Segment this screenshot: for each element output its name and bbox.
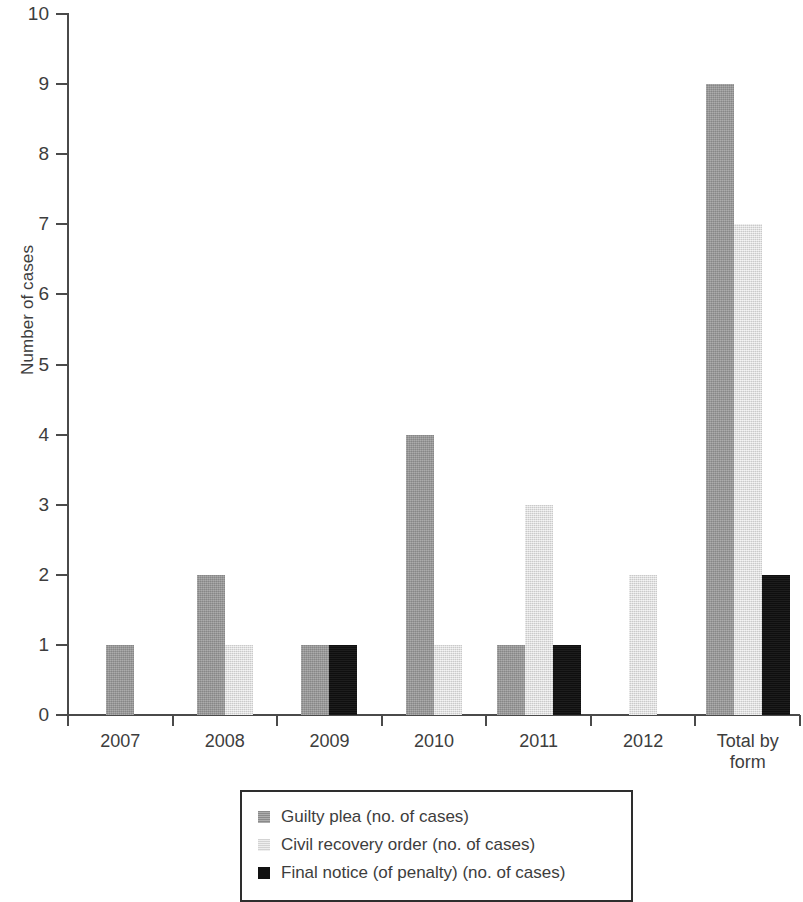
y-axis-tick-label: 7 (9, 214, 49, 233)
y-axis-tick-label: 6 (9, 284, 49, 303)
x-axis-tick (694, 715, 696, 726)
x-axis-category-label: 2009 (269, 731, 389, 752)
y-axis-tick (56, 364, 68, 366)
bar (525, 505, 553, 715)
x-axis-tick (67, 715, 69, 726)
y-axis-tick (56, 83, 68, 85)
y-axis-tick (56, 293, 68, 295)
plot-area (68, 14, 800, 715)
legend-label: Final notice (of penalty) (no. of cases) (281, 863, 565, 883)
bar (197, 575, 225, 715)
y-axis-tick-label: 5 (9, 355, 49, 374)
legend-label: Guilty plea (no. of cases) (281, 807, 469, 827)
legend-swatch-icon (258, 867, 270, 879)
y-axis-tick (56, 574, 68, 576)
legend-label: Civil recovery order (no. of cases) (281, 835, 535, 855)
y-axis-tick-label: 1 (9, 635, 49, 654)
legend-swatch-icon (258, 839, 270, 851)
chart-legend: Guilty plea (no. of cases)Civil recovery… (240, 790, 633, 902)
legend-item: Final notice (of penalty) (no. of cases) (258, 860, 565, 886)
bar (706, 84, 734, 715)
x-axis-category-label: 2008 (165, 731, 285, 752)
y-axis-tick-label: 8 (9, 144, 49, 163)
bar (734, 224, 762, 715)
x-axis-tick (276, 715, 278, 726)
legend-item: Guilty plea (no. of cases) (258, 804, 469, 830)
x-axis-tick (485, 715, 487, 726)
x-axis-tick (381, 715, 383, 726)
x-axis-tick (590, 715, 592, 726)
bar (553, 645, 581, 715)
legend-item: Civil recovery order (no. of cases) (258, 832, 535, 858)
y-axis-tick (56, 644, 68, 646)
y-axis-tick (56, 223, 68, 225)
bar (434, 645, 462, 715)
y-axis-tick-label: 2 (9, 565, 49, 584)
y-axis-tick-label: 4 (9, 425, 49, 444)
x-axis-category-label: Total byform (688, 731, 803, 773)
x-axis-tick (799, 715, 801, 726)
bar (762, 575, 790, 715)
y-axis-tick-label: 0 (9, 705, 49, 724)
bar (406, 435, 434, 715)
y-axis-tick (56, 13, 68, 15)
x-axis-category-label: 2012 (583, 731, 703, 752)
y-axis-tick (56, 434, 68, 436)
bar (225, 645, 253, 715)
y-axis-tick (56, 504, 68, 506)
y-axis-tick (56, 153, 68, 155)
y-axis-tick-label: 9 (9, 74, 49, 93)
bar (329, 645, 357, 715)
x-axis-category-label: 2010 (374, 731, 494, 752)
y-axis-tick-label: 10 (9, 4, 49, 23)
legend-swatch-icon (258, 811, 270, 823)
bar (106, 645, 134, 715)
bar (497, 645, 525, 715)
y-axis-tick-label: 3 (9, 495, 49, 514)
x-axis-tick (172, 715, 174, 726)
x-axis-category-label: 2011 (479, 731, 599, 752)
bar (629, 575, 657, 715)
x-axis-category-label: 2007 (60, 731, 180, 752)
bar (301, 645, 329, 715)
y-axis-title: Number of cases (18, 210, 38, 410)
